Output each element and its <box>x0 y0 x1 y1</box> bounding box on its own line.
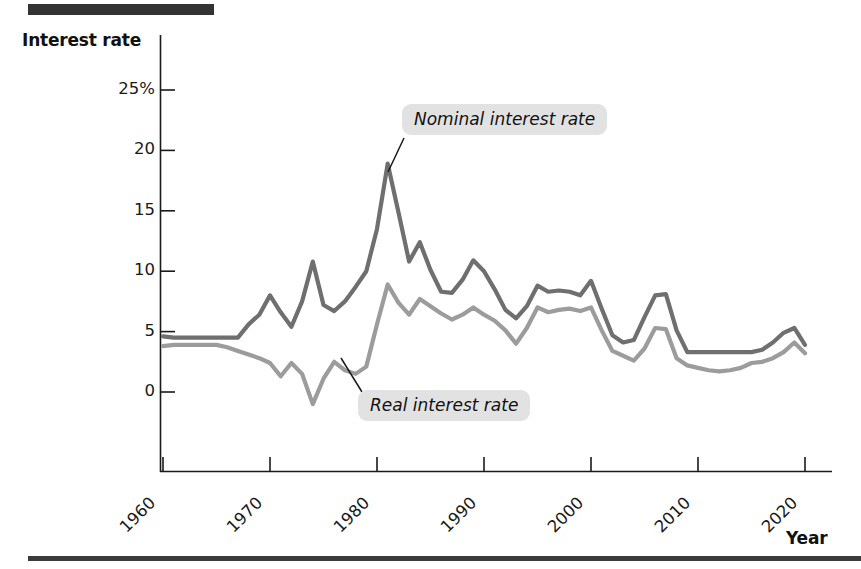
leader-line-real <box>341 358 362 392</box>
y-tick-label: 20 <box>95 139 155 158</box>
chart-figure: Interest rate Year Nominal interest rate… <box>0 0 861 569</box>
annotation-real-interest-rate: Real interest rate <box>358 390 530 421</box>
leader-line-nominal <box>388 138 404 172</box>
y-tick-label: 5 <box>95 321 155 340</box>
bottom-rule-decoration <box>28 556 861 561</box>
x-axis-ticks <box>163 457 805 471</box>
series-line-nominal-interest-rate <box>163 164 805 352</box>
y-tick-label: 15 <box>95 200 155 219</box>
annotation-nominal-interest-rate: Nominal interest rate <box>402 104 607 135</box>
y-tick-label: 0 <box>95 381 155 400</box>
annotation-leader-lines <box>341 138 404 392</box>
data-series-layer <box>163 164 805 404</box>
y-tick-label: 25% <box>95 79 155 98</box>
y-tick-label: 10 <box>95 260 155 279</box>
series-line-real-interest-rate <box>163 284 805 404</box>
